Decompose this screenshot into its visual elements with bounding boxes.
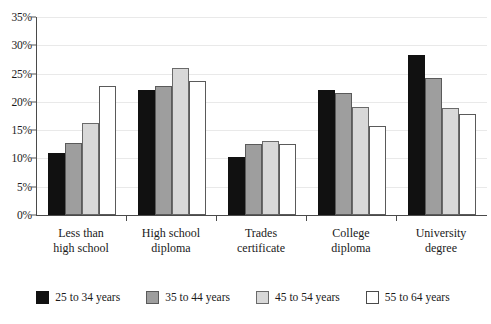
bar[interactable]: [172, 68, 189, 215]
category-label-line: University: [386, 226, 491, 241]
y-axis-tick-label: 30%: [12, 39, 32, 51]
legend-item[interactable]: 25 to 34 years: [36, 291, 120, 304]
bar[interactable]: [189, 81, 206, 215]
bar-group: [138, 17, 206, 215]
bar[interactable]: [459, 114, 476, 215]
x-axis-category-label: Universitydegree: [386, 226, 491, 255]
y-axis-tick-label: 35%: [12, 11, 32, 23]
bar-group: [318, 17, 386, 215]
x-axis-tick-mark: [126, 215, 127, 221]
y-axis-tick-label: 25%: [12, 68, 32, 80]
bar[interactable]: [279, 144, 296, 215]
category-label-line: degree: [386, 241, 491, 256]
legend-label: 55 to 64 years: [385, 291, 450, 303]
y-axis-tick-label: 5%: [17, 181, 32, 193]
bar[interactable]: [352, 107, 369, 215]
legend-swatch-icon: [256, 291, 269, 304]
legend-item[interactable]: 35 to 44 years: [146, 291, 230, 304]
bar[interactable]: [425, 78, 442, 215]
x-axis-tick-mark: [396, 215, 397, 221]
y-axis-tick-label: 10%: [12, 152, 32, 164]
x-axis-tick-mark: [216, 215, 217, 221]
legend-label: 25 to 34 years: [55, 291, 120, 303]
bar-group: [48, 17, 116, 215]
bar[interactable]: [65, 143, 82, 215]
bar[interactable]: [228, 157, 245, 215]
plot-inner: [37, 17, 487, 215]
bar-group: [408, 17, 476, 215]
legend-swatch-icon: [366, 291, 379, 304]
bar[interactable]: [99, 86, 116, 215]
bar[interactable]: [48, 153, 65, 215]
bar[interactable]: [318, 90, 335, 215]
bar[interactable]: [442, 108, 459, 215]
bar[interactable]: [138, 90, 155, 215]
chart-legend: 25 to 34 years35 to 44 years45 to 54 yea…: [0, 285, 486, 309]
plot-wrapper: 0%5%10%15%20%25%30%35% Less thanhigh sch…: [0, 0, 486, 280]
y-axis-tick-label: 0%: [17, 209, 32, 221]
y-axis-tick-label: 20%: [12, 96, 32, 108]
bar[interactable]: [408, 55, 425, 215]
legend-label: 35 to 44 years: [165, 291, 230, 303]
legend-swatch-icon: [146, 291, 159, 304]
legend-item[interactable]: 55 to 64 years: [366, 291, 450, 304]
bar[interactable]: [262, 141, 279, 215]
y-axis-tick-label: 15%: [12, 124, 32, 136]
bar[interactable]: [369, 126, 386, 215]
legend-swatch-icon: [36, 291, 49, 304]
bar[interactable]: [82, 123, 99, 215]
bar-group: [228, 17, 296, 215]
bar[interactable]: [155, 86, 172, 215]
x-axis-tick-mark: [306, 215, 307, 221]
bar[interactable]: [335, 93, 352, 215]
plot-area: [36, 17, 487, 216]
legend-item[interactable]: 45 to 54 years: [256, 291, 340, 304]
legend-label: 45 to 54 years: [275, 291, 340, 303]
bar[interactable]: [245, 144, 262, 215]
